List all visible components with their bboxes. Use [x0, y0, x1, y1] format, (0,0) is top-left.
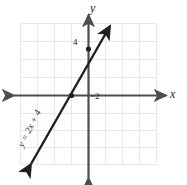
equation-label: y = 2x + 4 — [16, 96, 80, 160]
equation-label-text: y = 2x + 4 — [17, 109, 44, 149]
y-axis-label: y — [90, 2, 95, 14]
x-axis-label: x — [170, 88, 175, 100]
y-intercept-label: 4 — [73, 38, 78, 47]
x-intercept-label: −2 — [90, 92, 100, 101]
graph-figure: x y 4 −2 y = 2x + 4 — [0, 0, 187, 185]
point-marker-y-intercept — [86, 46, 91, 51]
